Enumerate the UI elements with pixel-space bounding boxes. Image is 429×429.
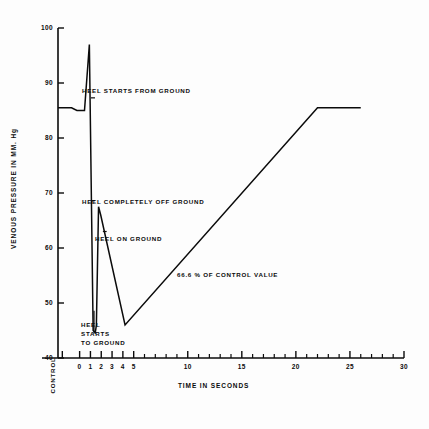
- annotation-control-value-percent: 66.6 % OF CONTROL VALUE: [177, 270, 278, 279]
- y-tick-label-40: 40: [31, 354, 53, 361]
- annotation-heel-completely-off-ground: HEEL COMPLETELY OFF GROUND: [82, 197, 205, 206]
- annotation-line-2: STARTS: [81, 329, 125, 338]
- y-tick-label-50: 50: [31, 299, 53, 306]
- x-tick-label-10: 10: [180, 363, 196, 370]
- annotation-heel-on-ground: HEEL ON GROUND: [95, 234, 162, 243]
- y-axis-ticks: [58, 28, 64, 358]
- x-tick-label-15: 15: [234, 363, 250, 370]
- chart-canvas: [0, 0, 429, 429]
- y-tick-label-90: 90: [31, 79, 53, 86]
- annotation-line-1: HEEL: [81, 320, 125, 329]
- annotation-heel-starts-from-ground: HEEL STARTS FROM GROUND: [82, 86, 191, 95]
- annotation-heel-starts-to-ground: HEEL STARTS TO GROUND: [81, 320, 125, 347]
- y-tick-label-80: 80: [31, 134, 53, 141]
- x-tick-label-25: 25: [342, 363, 358, 370]
- x-axis-ticks: [62, 351, 404, 358]
- x-axis-title: TIME IN SECONDS: [178, 382, 249, 389]
- x-tick-label-30: 30: [396, 363, 412, 370]
- annotation-line-3: TO GROUND: [81, 338, 125, 347]
- y-tick-label-60: 60: [31, 244, 53, 251]
- x-tick-label-5: 5: [126, 363, 142, 370]
- x-tick-label-20: 20: [288, 363, 304, 370]
- venous-pressure-chart: VENOUS PRESSURE IN MM. Hg TIME IN SECOND…: [0, 0, 429, 429]
- y-tick-label-70: 70: [31, 189, 53, 196]
- y-tick-label-100: 100: [31, 24, 53, 31]
- y-axis-title: VENOUS PRESSURE IN MM. Hg: [10, 114, 17, 264]
